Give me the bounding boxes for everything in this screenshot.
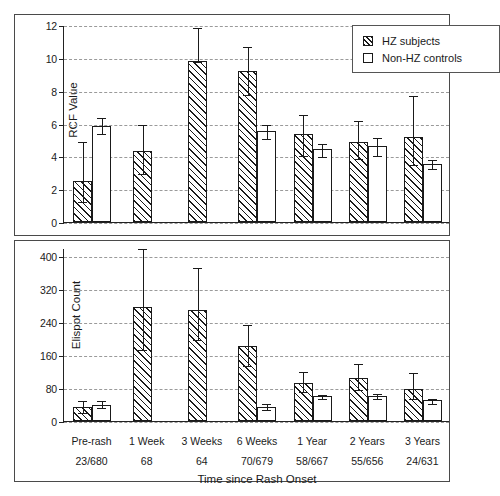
gridline (64, 323, 449, 324)
y-axis-tick (59, 323, 64, 324)
error-bar-cap-lower (428, 404, 437, 405)
error-bar-line (248, 47, 249, 95)
error-bar-line (102, 118, 103, 134)
error-bar-line (413, 96, 414, 165)
error-bar-cap-lower (409, 399, 418, 400)
error-bar-cap-upper (262, 404, 271, 405)
y-axis-tick-label: 320 (40, 284, 57, 296)
bar-non-hz-controls (423, 164, 442, 222)
y-axis-tick (59, 290, 64, 291)
error-bar-cap-upper (78, 401, 87, 402)
y-axis-tick-label: 10 (46, 53, 57, 65)
error-bar-cap-lower (299, 156, 308, 157)
error-bar-cap-upper (97, 401, 106, 402)
error-bar-cap-upper (373, 394, 382, 395)
error-bar-cap-lower (78, 202, 87, 203)
gridline (64, 290, 449, 291)
bar-hz-subjects (188, 61, 207, 222)
elispot-plot-area: Elispot Count 080160240320400 Pre-rash23… (63, 249, 449, 422)
x-axis-sample-size-label: 58/667 (296, 455, 328, 467)
error-bar-line (358, 121, 359, 159)
error-bar-cap-lower (193, 340, 202, 341)
x-axis-category-label: 1 Year (297, 435, 327, 447)
error-bar-cap-upper (409, 373, 418, 374)
legend-box: HZ subjects Non-HZ controls (352, 25, 500, 73)
error-bar-cap-upper (193, 28, 202, 29)
y-axis-tick-label: 6 (51, 119, 57, 131)
error-bar-cap-upper (428, 399, 437, 400)
elispot-y-axis-title: Elispot Count (70, 267, 82, 363)
x-axis-category-label: 6 Weeks (237, 435, 278, 447)
error-bar-cap-lower (262, 139, 271, 140)
legend-label-control: Non-HZ controls (382, 52, 462, 64)
error-bar-cap-upper (428, 160, 437, 161)
gridline (64, 422, 449, 423)
error-bar-line (413, 373, 414, 400)
error-bar-line (432, 160, 433, 169)
legend-swatch-control-icon (363, 53, 373, 63)
y-axis-tick (59, 356, 64, 357)
error-bar-cap-lower (97, 134, 106, 135)
gridline (64, 257, 449, 258)
error-bar-line (198, 268, 199, 340)
error-bar-line (143, 125, 144, 174)
y-axis-tick-label: 400 (40, 251, 57, 263)
error-bar-cap-lower (373, 156, 382, 157)
error-bar-cap-upper (193, 268, 202, 269)
error-bar-line (102, 401, 103, 408)
error-bar-line (303, 115, 304, 156)
y-axis-tick (59, 190, 64, 191)
bar-non-hz-controls (92, 126, 111, 222)
error-bar-line (377, 138, 378, 156)
error-bar-line (267, 125, 268, 140)
error-bar-cap-upper (138, 125, 147, 126)
bar-non-hz-controls (257, 131, 276, 222)
y-axis-tick-label: 2 (51, 184, 57, 196)
x-axis-sample-size-label: 68 (141, 455, 153, 467)
x-axis-sample-size-label: 70/679 (241, 455, 273, 467)
error-bar-cap-upper (78, 142, 87, 143)
y-axis-tick-label: 160 (40, 350, 57, 362)
error-bar-cap-lower (318, 399, 327, 400)
error-bar-cap-lower (78, 413, 87, 414)
y-axis-tick (59, 26, 64, 27)
x-axis-sample-size-label: 55/656 (351, 455, 383, 467)
error-bar-cap-upper (299, 115, 308, 116)
error-bar-cap-upper (243, 325, 252, 326)
y-axis-tick-label: 0 (51, 217, 57, 229)
error-bar-cap-upper (318, 395, 327, 396)
error-bar-cap-lower (354, 159, 363, 160)
y-axis-tick (59, 422, 64, 423)
bar-non-hz-controls (368, 146, 387, 222)
error-bar-line (83, 401, 84, 413)
error-bar-cap-upper (354, 364, 363, 365)
y-axis-tick (59, 389, 64, 390)
error-bar-cap-lower (138, 350, 147, 351)
y-axis-tick-label: 240 (40, 317, 57, 329)
legend-entry-control: Non-HZ controls (363, 49, 491, 66)
y-axis-tick (59, 157, 64, 158)
bar-non-hz-controls (313, 149, 332, 222)
error-bar-cap-lower (243, 366, 252, 367)
y-axis-tick (59, 125, 64, 126)
error-bar-cap-upper (373, 138, 382, 139)
x-axis-category-label: Pre-rash (71, 435, 111, 447)
error-bar-line (143, 249, 144, 350)
x-axis-sample-size-label: 23/680 (76, 455, 108, 467)
error-bar-cap-lower (428, 169, 437, 170)
error-bar-cap-lower (243, 95, 252, 96)
error-bar-cap-lower (193, 62, 202, 63)
error-bar-line (83, 142, 84, 203)
x-axis-sample-size-label: 24/631 (406, 455, 438, 467)
error-bar-cap-upper (243, 47, 252, 48)
error-bar-line (303, 372, 304, 392)
error-bar-cap-lower (409, 165, 418, 166)
error-bar-cap-upper (97, 118, 106, 119)
error-bar-line (322, 144, 323, 156)
error-bar-cap-lower (138, 174, 147, 175)
error-bar-cap-upper (354, 121, 363, 122)
legend-entry-hz: HZ subjects (363, 32, 491, 49)
y-axis-tick-label: 8 (51, 86, 57, 98)
error-bar-line (248, 325, 249, 367)
